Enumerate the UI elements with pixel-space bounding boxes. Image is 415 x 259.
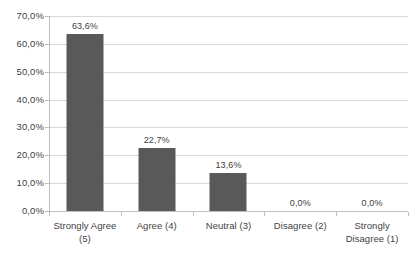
bar-value-label: 0,0%: [362, 198, 383, 208]
y-axis-tick-mark: [45, 72, 49, 73]
x-axis-tick-mark: [193, 212, 194, 216]
y-axis: 0,0%10,0%20,0%30,0%40,0%50,0%60,0%70,0%: [0, 0, 44, 259]
x-axis-category-label: Agree (4): [121, 220, 193, 233]
x-axis-category-label: Neutral (3): [193, 220, 265, 233]
y-axis-tick-label: 50,0%: [0, 67, 44, 77]
category-label-line: Disagree (1): [336, 233, 408, 246]
y-axis-tick-label: 60,0%: [0, 39, 44, 49]
bar-value-label: 22,7%: [144, 135, 170, 145]
y-axis-tick-label: 30,0%: [0, 122, 44, 132]
bar-group: 0,0%: [264, 16, 336, 211]
bar-chart: 0,0%10,0%20,0%30,0%40,0%50,0%60,0%70,0% …: [0, 0, 415, 259]
x-axis-line: [49, 211, 408, 212]
y-axis-tick-mark: [45, 155, 49, 156]
y-axis-tick-label: 10,0%: [0, 178, 44, 188]
x-axis-tick-mark: [49, 212, 50, 216]
y-axis-tick-label: 40,0%: [0, 95, 44, 105]
bar-value-label: 13,6%: [215, 160, 241, 170]
bar-value-label: 63,6%: [72, 21, 98, 31]
x-axis-category-labels: Strongly Agree(5)Agree (4)Neutral (3)Dis…: [49, 220, 408, 259]
y-axis-tick-mark: [45, 127, 49, 128]
category-label-line: Agree (4): [121, 220, 193, 233]
y-axis-tick-label: 0,0%: [0, 206, 44, 216]
bar-group: 0,0%: [336, 16, 408, 211]
x-axis-tick-mark: [336, 212, 337, 216]
bars-layer: 63,6%22,7%13,6%0,0%0,0%: [49, 16, 408, 211]
y-axis-tick-mark: [45, 211, 49, 212]
y-axis-tick-mark: [45, 16, 49, 17]
category-label-line: Strongly: [336, 220, 408, 233]
x-axis-tick-mark: [264, 212, 265, 216]
x-axis-tick-mark: [408, 212, 409, 216]
y-axis-tick-label: 70,0%: [0, 11, 44, 21]
category-label-line: Neutral (3): [193, 220, 265, 233]
bar: [210, 173, 247, 211]
category-label-line: Strongly Agree: [49, 220, 121, 233]
x-axis-tick-mark: [121, 212, 122, 216]
bar-group: 63,6%: [49, 16, 121, 211]
y-axis-tick-mark: [45, 44, 49, 45]
y-axis-tick-mark: [45, 100, 49, 101]
bar: [66, 34, 103, 211]
x-axis-category-label: Disagree (2): [264, 220, 336, 233]
y-axis-tick-mark: [45, 183, 49, 184]
y-axis-tick-label: 20,0%: [0, 150, 44, 160]
bar-group: 22,7%: [121, 16, 193, 211]
x-axis-category-label: StronglyDisagree (1): [336, 220, 408, 245]
x-axis-category-label: Strongly Agree(5): [49, 220, 121, 245]
category-label-line: (5): [49, 233, 121, 246]
bar-group: 13,6%: [193, 16, 265, 211]
bar-value-label: 0,0%: [290, 198, 311, 208]
category-label-line: Disagree (2): [264, 220, 336, 233]
bar: [138, 148, 175, 211]
